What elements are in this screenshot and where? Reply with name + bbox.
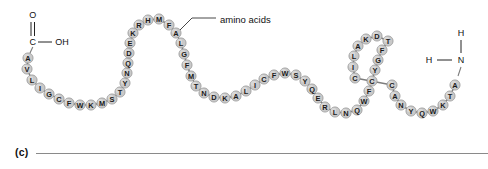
residue-highlight bbox=[177, 39, 182, 44]
amino-acid-residue: C bbox=[367, 76, 377, 86]
protein-chain-diagram: O C OH H H N AVLIGCFWKMSTYNQDEKRHMFALGFM… bbox=[0, 0, 488, 169]
residue-highlight bbox=[260, 75, 265, 80]
amino-acid-residue: M bbox=[186, 71, 196, 81]
residue-highlight bbox=[373, 32, 378, 37]
residue-highlight bbox=[24, 54, 29, 59]
residue-highlight bbox=[180, 50, 185, 55]
amino-acid-residue: N bbox=[341, 108, 351, 118]
residue-highlight bbox=[301, 77, 306, 82]
amino-acid-residue: I bbox=[35, 83, 45, 93]
residue-highlight bbox=[351, 74, 356, 79]
residue-highlight bbox=[192, 82, 197, 87]
amino-acids-callout: amino acids bbox=[180, 14, 271, 31]
residue-highlight bbox=[116, 88, 121, 93]
amino-acid-residue: L bbox=[349, 51, 359, 61]
residue-highlight bbox=[87, 101, 92, 106]
residue-highlight bbox=[76, 101, 81, 106]
hydroxyl-label: OH bbox=[55, 37, 69, 47]
callout-leader-line bbox=[180, 18, 216, 30]
amino-acid-residue: I bbox=[348, 62, 358, 72]
amino-acid-residue: T bbox=[383, 36, 393, 46]
residue-highlight bbox=[321, 103, 326, 108]
amino-acid-residue: L bbox=[241, 86, 251, 96]
residue-highlight bbox=[135, 21, 140, 26]
callout-label: amino acids bbox=[220, 14, 271, 25]
amino-acid-residue: E bbox=[313, 93, 323, 103]
amino-acid-residue: Q bbox=[352, 105, 362, 115]
residue-highlight bbox=[200, 89, 205, 94]
amino-acid-residue: W bbox=[359, 96, 369, 106]
amino-acid-residue: T bbox=[115, 87, 125, 97]
residue-highlight bbox=[123, 69, 128, 74]
residue-highlight bbox=[331, 108, 336, 113]
amino-acid-residue: Y bbox=[120, 78, 130, 88]
amino-acid-residue: S bbox=[291, 70, 301, 80]
amino-acid-residue: C bbox=[387, 80, 397, 90]
amino-acid-residue: I bbox=[250, 80, 260, 90]
residue-highlight bbox=[371, 66, 376, 71]
amino-acid-residue: C bbox=[350, 73, 360, 83]
amino-acid-residue: W bbox=[428, 106, 438, 116]
residue-highlight bbox=[374, 56, 379, 61]
amino-acid-residue: F bbox=[64, 98, 74, 108]
amino-acid-residue: G bbox=[373, 55, 383, 65]
residue-highlight bbox=[451, 81, 456, 86]
residue-highlight bbox=[353, 106, 358, 111]
hydrogen-left-label: H bbox=[426, 55, 433, 65]
amino-acid-residue: N bbox=[396, 100, 406, 110]
residue-highlight bbox=[270, 71, 275, 76]
residue-highlight bbox=[121, 79, 126, 84]
residue-highlight bbox=[388, 81, 393, 86]
residue-highlight bbox=[98, 99, 103, 104]
polypeptide-figure: O C OH H H N AVLIGCFWKMSTYNQDEKRHMFALGFM… bbox=[0, 0, 488, 169]
amino-acid-residue: F bbox=[164, 20, 174, 30]
panel-divider-rule bbox=[36, 153, 488, 154]
residue-highlight bbox=[349, 63, 354, 68]
amino-acid-residue: D bbox=[372, 31, 382, 41]
amino-acid-residue: Q bbox=[123, 58, 133, 68]
residue-highlight bbox=[108, 95, 113, 100]
c-terminus-group: O C OH bbox=[29, 10, 68, 53]
hydrogen-top-label: H bbox=[458, 28, 465, 38]
oxygen-label: O bbox=[29, 10, 36, 20]
residue-highlight bbox=[292, 71, 297, 76]
residue-highlight bbox=[378, 46, 383, 51]
residue-highlight bbox=[45, 90, 50, 95]
amino-acid-residue: K bbox=[220, 93, 230, 103]
c-to-chain-bond bbox=[30, 47, 33, 53]
residue-highlight bbox=[446, 92, 451, 97]
residue-highlight bbox=[124, 59, 129, 64]
residue-highlight bbox=[126, 39, 131, 44]
amino-acid-residue: Y bbox=[300, 76, 310, 86]
amino-acid-residue: T bbox=[191, 81, 201, 91]
amino-acid-residue: Y bbox=[406, 106, 416, 116]
amino-acid-residue: K bbox=[438, 100, 448, 110]
carboxyl-carbon-label: C bbox=[30, 37, 37, 47]
residue-highlight bbox=[210, 93, 215, 98]
residue-highlight bbox=[242, 87, 247, 92]
residue-highlight bbox=[65, 99, 70, 104]
residue-highlight bbox=[281, 69, 286, 74]
amino-acid-residue: Q bbox=[417, 108, 427, 118]
amino-acid-residue: W bbox=[75, 100, 85, 110]
amino-acid-residue: G bbox=[44, 89, 54, 99]
amino-acid-residue: C bbox=[259, 74, 269, 84]
amino-acid-residue: A bbox=[231, 91, 241, 101]
amino-acid-residue: N bbox=[122, 68, 132, 78]
residue-highlight bbox=[407, 107, 412, 112]
residue-highlight bbox=[125, 49, 130, 54]
amino-acid-residue: H bbox=[143, 15, 153, 25]
amino-acid-residue: A bbox=[353, 41, 363, 51]
residue-highlight bbox=[384, 37, 389, 42]
amino-acid-residue: M bbox=[97, 98, 107, 108]
amino-acid-residue: Y bbox=[370, 65, 380, 75]
amino-acid-residue: A bbox=[390, 91, 400, 101]
amino-acid-residue: A bbox=[23, 53, 33, 63]
residue-highlight bbox=[36, 84, 41, 89]
residue-highlight bbox=[365, 87, 370, 92]
residue-highlight bbox=[360, 97, 365, 102]
residue-highlight bbox=[350, 52, 355, 57]
residue-highlight bbox=[144, 16, 149, 21]
n-to-chain-bond bbox=[458, 67, 461, 76]
residue-highlight bbox=[165, 21, 170, 26]
